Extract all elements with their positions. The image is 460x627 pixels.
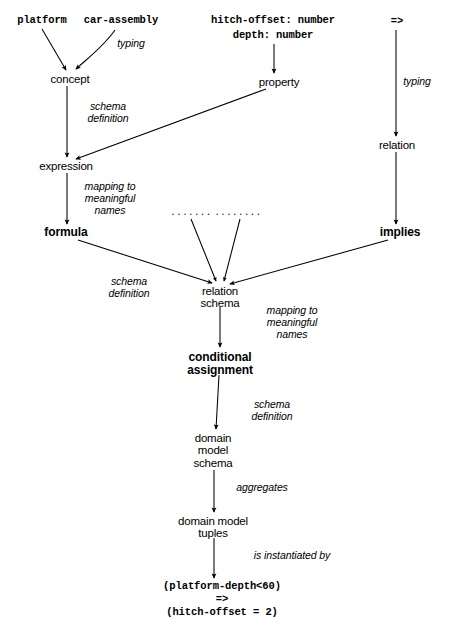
node-platform: platform [17,15,67,26]
node-relation: relation [379,139,415,151]
edge-ellipsis-right-to-relation-schema [224,219,240,281]
node-domain-model-schema: domain model schema [193,432,232,469]
edge-platform-to-concept [42,29,66,70]
edge-label-schema-definition-expression: schema definition [87,101,128,125]
node-hitch-offset-declaration: hitch-offset: number [211,15,335,26]
node-concept: concept [51,73,90,85]
edge-label-mapping-conditional-assignment: mapping to meaningful names [267,305,318,340]
node-relation-schema: relation schema [200,285,239,310]
node-conditional-assignment: conditional assignment [187,351,253,377]
node-expression: expression [39,160,93,172]
edge-label-mapping-formula: mapping to meaningful names [85,181,136,216]
edge-label-typing-relation: typing [403,76,430,88]
diagram-canvas: platform car-assembly hitch-offset: numb… [0,0,460,627]
edge-label-is-instantiated-by: is instantiated by [254,550,330,562]
node-formula: formula [44,226,87,239]
edge-car-assembly-to-concept [76,30,115,69]
edge-conditional-assignment-to-domain-model-schema [216,375,219,429]
node-implication-symbol: => [391,16,403,27]
edge-ellipsis-left-to-relation-schema [191,219,216,281]
node-implies: implies [380,226,421,239]
node-result-implication-symbol: => [216,594,228,605]
edge-implies-to-relation-schema [230,240,388,284]
edge-label-schema-definition-relation-schema: schema definition [108,276,149,300]
node-result-condition: (platform-depth<60) [163,581,281,592]
node-property: property [259,76,300,88]
edge-label-aggregates: aggregates [236,482,288,494]
node-car-assembly: car-assembly [84,15,158,26]
node-depth-declaration: depth: number [233,30,314,41]
edge-label-typing-concept: typing [117,38,144,50]
ellipsis-mark-left: ....... [170,208,211,218]
ellipsis-mark-right: ........ [214,208,261,218]
node-result-consequent: (hitch-offset = 2) [166,607,278,618]
node-domain-model-tuples: domain model tuples [178,515,248,540]
edge-label-schema-definition-domain-model-schema: schema definition [251,399,292,423]
